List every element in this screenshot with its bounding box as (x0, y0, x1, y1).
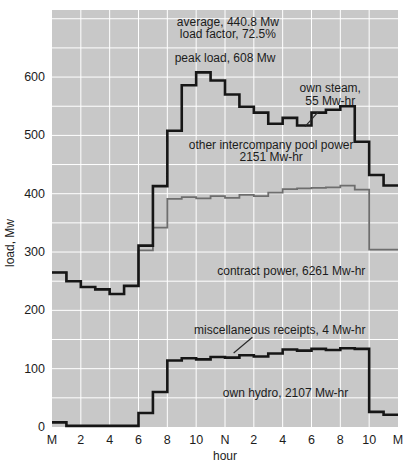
x-tick-label: 8 (164, 433, 171, 447)
y-tick-label: 0 (38, 420, 45, 434)
x-tick-label: M (393, 433, 403, 447)
x-tick-label: N (220, 433, 229, 447)
y-tick-label: 500 (24, 128, 45, 142)
x-tick-label: M (47, 433, 57, 447)
annotation-peak-load-line: peak load, 608 Mw (175, 51, 276, 65)
x-tick-label: 10 (189, 433, 203, 447)
annotation-pool-power-line: 2151 Mw-hr (239, 150, 302, 164)
x-tick-label: 6 (135, 433, 142, 447)
x-tick-label: 8 (337, 433, 344, 447)
x-tick-label: 6 (308, 433, 315, 447)
x-tick-label: 10 (362, 433, 376, 447)
annotation-own-hydro: own hydro, 2107 Mw-hr (223, 386, 348, 400)
annotation-average: average, 440.8 Mwload factor, 72.5% (177, 15, 279, 42)
annotation-own-steam: own steam,55 Mw-hr (300, 81, 361, 108)
annotation-contract-power: contract power, 6261 Mw-hr (217, 264, 365, 278)
x-tick-label: 4 (106, 433, 113, 447)
figure-page: average, 440.8 Mwload factor, 72.5%peak … (0, 0, 416, 471)
x-tick-label: 2 (77, 433, 84, 447)
y-tick-label: 200 (24, 303, 45, 317)
annotation-own-steam-line: 55 Mw-hr (305, 94, 355, 108)
annotation-misc-receipts-line: miscellaneous receipts, 4 Mw-hr (194, 323, 365, 337)
y-tick-label: 600 (24, 70, 45, 84)
annotation-average-line: load factor, 72.5% (180, 27, 276, 41)
x-tick-label: 4 (279, 433, 286, 447)
y-tick-label: 300 (24, 245, 45, 259)
annotation-misc-receipts: miscellaneous receipts, 4 Mw-hr (194, 323, 365, 337)
annotation-contract-power-line: contract power, 6261 Mw-hr (217, 264, 365, 278)
y-axis-label: load, Mw (3, 219, 17, 267)
x-tick-label: 2 (250, 433, 257, 447)
y-tick-label: 100 (24, 362, 45, 376)
annotation-own-hydro-line: own hydro, 2107 Mw-hr (223, 386, 348, 400)
annotation-peak-load: peak load, 608 Mw (175, 51, 276, 65)
y-tick-label: 400 (24, 187, 45, 201)
x-axis-label: hour (213, 449, 237, 463)
load-curve-chart: average, 440.8 Mwload factor, 72.5%peak … (0, 0, 416, 471)
